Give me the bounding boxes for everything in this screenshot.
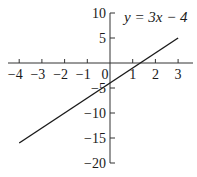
y-tick-label: −10 (84, 106, 106, 121)
x-tick-label: −3 (30, 67, 45, 82)
x-tick-label: 2 (152, 67, 159, 82)
x-tick-label: −2 (53, 67, 68, 82)
ticks: −4−3−2−10123105−5−10−15−20 (8, 6, 182, 171)
x-tick-label: 0 (102, 67, 109, 82)
y-tick-label: −20 (84, 156, 106, 171)
y-tick-label: −15 (84, 131, 106, 146)
x-tick-label: 3 (175, 67, 182, 82)
equation-annotation: y = 3x − 4 (122, 9, 188, 25)
line-chart: −4−3−2−10123105−5−10−15−20 y = 3x − 4 (0, 0, 197, 177)
y-tick-label: 5 (99, 31, 106, 46)
x-tick-label: −4 (8, 67, 23, 82)
y-tick-label: 10 (92, 6, 106, 21)
series-line (19, 38, 178, 143)
plot-area (19, 38, 178, 143)
x-tick-label: −1 (76, 67, 91, 82)
